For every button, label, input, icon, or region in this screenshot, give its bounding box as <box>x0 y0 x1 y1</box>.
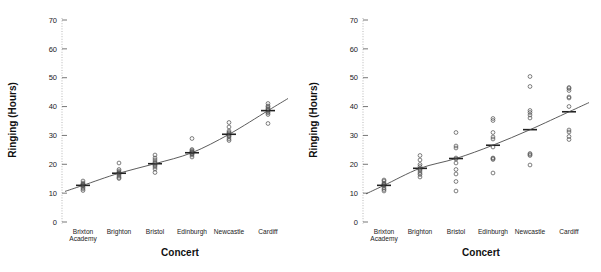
x-category-label: Edinburgh <box>478 228 508 236</box>
figure-root: 010203040506070 BrixtonAcademyBrightonBr… <box>0 0 601 272</box>
y-tick-label: 10 <box>49 189 57 198</box>
y-tick-label: 50 <box>350 73 358 82</box>
data-point <box>528 163 532 167</box>
chart-panel-right: 010203040506070 BrixtonAcademyBrightonBr… <box>301 0 601 272</box>
x-axis-title-left: Concert <box>161 247 199 258</box>
y-axis-title-left: Ringing (Hours) <box>7 82 18 158</box>
data-point <box>418 158 422 162</box>
data-point <box>190 137 194 141</box>
x-category-label: Newcastle <box>515 228 546 235</box>
y-tick-group-left: 010203040506070 <box>49 16 67 227</box>
y-tick-label: 20 <box>49 160 57 169</box>
x-category-labels-right: BrixtonAcademyBrightonBristolEdinburghNe… <box>370 228 579 243</box>
data-point <box>491 171 495 175</box>
y-tick-label: 10 <box>350 189 358 198</box>
scatter-plot-left: 010203040506070 BrixtonAcademyBrightonBr… <box>0 0 300 272</box>
x-category-label: Brixton <box>374 228 395 235</box>
data-points-right <box>366 75 589 194</box>
data-point <box>418 154 422 158</box>
x-category-label: Brixton <box>73 228 94 235</box>
data-point <box>454 189 458 193</box>
scatter-plot-right: 010203040506070 BrixtonAcademyBrightonBr… <box>301 0 601 272</box>
data-point <box>454 168 458 172</box>
x-category-label: Cardiff <box>258 228 277 235</box>
trend-line <box>65 99 288 192</box>
y-tick-label: 40 <box>350 102 358 111</box>
y-tick-label: 0 <box>53 218 57 227</box>
x-category-label: Newcastle <box>214 228 245 235</box>
trend-line <box>366 103 589 194</box>
data-points-left <box>65 99 288 193</box>
data-point <box>454 131 458 135</box>
data-point <box>227 121 231 125</box>
data-point <box>491 131 495 135</box>
y-tick-group-right: 010203040506070 <box>350 16 368 227</box>
y-tick-label: 20 <box>350 160 358 169</box>
data-point <box>227 125 231 129</box>
data-point <box>454 172 458 176</box>
x-category-label-line2: Academy <box>370 235 398 243</box>
x-category-label: Brighton <box>107 228 132 236</box>
y-tick-label: 60 <box>350 45 358 54</box>
data-point <box>528 75 532 79</box>
data-point <box>567 105 571 109</box>
x-category-label: Cardiff <box>559 228 578 235</box>
data-point <box>528 85 532 89</box>
data-point <box>454 180 458 184</box>
y-tick-label: 60 <box>49 45 57 54</box>
x-category-label: Brighton <box>408 228 433 236</box>
x-category-label: Bristol <box>146 228 165 235</box>
x-axis-title-right: Concert <box>462 247 500 258</box>
y-tick-label: 40 <box>49 102 57 111</box>
x-category-labels-left: BrixtonAcademyBrightonBristolEdinburghNe… <box>69 228 278 243</box>
data-point <box>117 161 121 165</box>
x-category-label: Edinburgh <box>177 228 207 236</box>
y-tick-label: 30 <box>350 131 358 140</box>
y-axis-title-right: Ringing (Hours) <box>308 82 319 158</box>
y-tick-label: 30 <box>49 131 57 140</box>
data-point <box>454 161 458 165</box>
data-point <box>266 122 270 126</box>
x-category-label-line2: Academy <box>69 235 97 243</box>
x-category-label: Bristol <box>447 228 466 235</box>
y-tick-label: 70 <box>350 16 358 25</box>
chart-panel-left: 010203040506070 BrixtonAcademyBrightonBr… <box>0 0 300 272</box>
y-tick-label: 0 <box>354 218 358 227</box>
y-tick-label: 70 <box>49 16 57 25</box>
y-tick-label: 50 <box>49 73 57 82</box>
